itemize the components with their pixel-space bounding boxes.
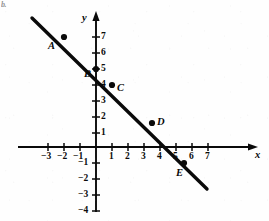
point-a-dot [61,34,67,40]
point-b-dot [93,66,99,72]
y-tick-label--4: −4 [78,206,88,216]
x-axis [18,143,258,150]
y-tick-label-6: 6 [101,48,106,58]
point-label-c: C [117,83,124,94]
coordinate-plane-canvas [0,0,269,221]
x-tick-label-2: 2 [125,152,130,162]
x-tick-label-1: 1 [109,152,114,162]
y-tick-label--2: −2 [78,174,88,184]
y-tick-label-7: 7 [101,32,106,42]
point-label-a: A [48,41,55,52]
y-tick-label--3: −3 [78,190,88,200]
y-tick-label-1: 1 [101,128,106,138]
y-tick-label-5: 5 [101,64,106,74]
y-axis-label: y [82,13,87,24]
plotted-line [32,18,207,189]
y-tick-label-3: 3 [101,96,106,106]
x-tick-label-3: 3 [141,152,146,162]
y-axis [92,11,99,212]
point-d-dot [149,120,155,126]
point-label-e: E [176,168,183,179]
coordinate-plane-figure: b. [0,0,269,221]
x-tick-label-5: 5 [173,152,178,162]
point-label-b: B [84,69,91,80]
point-e-dot [181,160,187,166]
x-tick-label--2: −2 [57,152,67,162]
x-axis-label: x [255,150,260,161]
y-tick-label-2: 2 [101,112,106,122]
x-tick-label--3: −3 [41,152,51,162]
x-tick-label-6: 6 [189,152,194,162]
x-tick-label-7: 7 [205,152,210,162]
y-tick-label--1: −1 [78,158,88,168]
y-tick-label-4: 4 [101,80,106,90]
x-tick-label-4: 4 [157,152,162,162]
point-label-d: D [157,117,165,128]
point-c-dot [109,82,115,88]
